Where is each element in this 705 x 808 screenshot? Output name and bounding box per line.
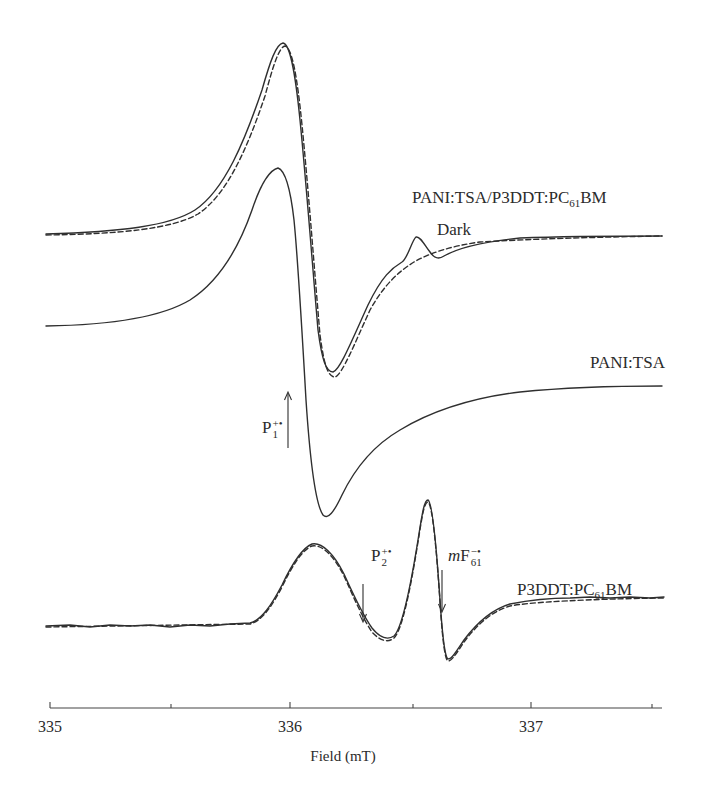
label-mf61-italic: m: [448, 546, 460, 565]
label-dark: Dark: [437, 220, 471, 240]
label-p2: P+•2: [371, 546, 392, 568]
label-mf61-sub: 61: [471, 557, 482, 568]
tick-label-337: 337: [519, 718, 543, 736]
label-top-series-sub: 61: [569, 197, 580, 209]
tick-label-335: 335: [38, 718, 62, 736]
tick-label-336: 336: [278, 718, 302, 736]
label-middle-series: PANI:TSA: [590, 353, 665, 373]
series-pani-tsa: [46, 168, 662, 516]
label-middle-series-text: PANI:TSA: [590, 353, 665, 372]
label-bottom-series-sub: 61: [595, 589, 606, 601]
x-axis: [50, 702, 662, 708]
label-mf61-base: F: [460, 546, 469, 565]
label-top-series-text: PANI:TSA/P3DDT:PC: [412, 188, 569, 207]
x-axis-title: Field (mT): [310, 748, 375, 765]
label-bottom-series-text: P3DDT:PC: [517, 580, 595, 599]
label-bottom-series-tail: BM: [606, 580, 632, 599]
label-dark-text: Dark: [437, 220, 471, 239]
label-mf61: mF−•61: [448, 546, 482, 568]
label-p2-sub: 2: [381, 557, 391, 568]
series-top-dark-dashed: [46, 46, 662, 377]
label-p1: P+•1: [262, 418, 283, 440]
label-p1-sub: 1: [272, 429, 282, 440]
label-bottom-series: P3DDT:PC61BM: [517, 580, 632, 600]
label-p1-base: P: [262, 418, 271, 437]
label-top-series: PANI:TSA/P3DDT:PC61BM: [412, 188, 607, 208]
label-top-series-tail: BM: [580, 188, 606, 207]
epr-spectra-chart: [0, 0, 705, 808]
label-p2-base: P: [371, 546, 380, 565]
